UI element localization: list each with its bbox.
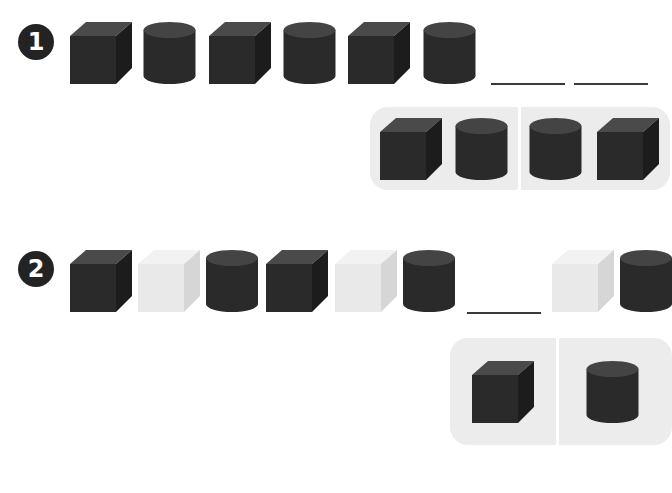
dark-cube-icon [209,22,271,84]
problem-number-badge: 2 [18,251,54,287]
light-cube-icon [552,250,614,312]
dark-cube-icon [266,250,328,312]
dark-cylinder-icon [206,250,258,312]
answer-option-1[interactable] [370,107,518,190]
dark-cube-icon [380,118,442,180]
light-cube-icon [335,250,397,312]
answer-blank-1[interactable] [467,312,541,314]
dark-cylinder-icon [403,250,455,312]
answer-option-1[interactable] [450,338,556,445]
dark-cube-icon [597,118,659,180]
problem-number-badge: 1 [18,24,54,60]
dark-cylinder-icon [586,361,639,423]
answer-blank-2[interactable] [574,83,648,85]
answer-blank-1[interactable] [491,83,565,85]
dark-cube-icon [472,361,534,423]
dark-cylinder-icon [283,22,336,84]
dark-cylinder-icon [455,118,508,180]
answer-option-2[interactable] [559,338,672,445]
answer-options-box [450,338,672,445]
dark-cube-icon [70,22,132,84]
dark-cube-icon [348,22,410,84]
dark-cylinder-icon [423,22,476,84]
dark-cylinder-icon [620,250,672,312]
answer-options-box [370,107,670,190]
dark-cylinder-icon [529,118,582,180]
light-cube-icon [138,250,200,312]
dark-cylinder-icon [143,22,196,84]
answer-option-2[interactable] [521,107,670,190]
dark-cube-icon [70,250,132,312]
